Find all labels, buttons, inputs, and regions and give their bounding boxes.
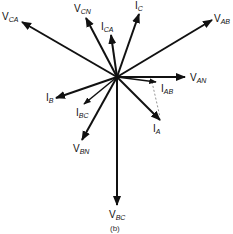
label-i-ca: ICA	[101, 21, 114, 33]
phasor-i-bc	[84, 77, 117, 104]
label-v-cn: VCN	[74, 3, 92, 15]
construction-dashed-lines	[152, 82, 160, 117]
label-i-ab: IAB	[161, 83, 173, 95]
phasor-diagram: VCAVCNICICAVABVANIABIAVBCVBNIBCIB (b)	[0, 0, 233, 234]
label-i-a: IA	[153, 123, 161, 135]
phasor-i-c	[117, 14, 139, 77]
label-i-c: IC	[135, 0, 144, 12]
label-v-bc: VBC	[109, 209, 126, 221]
dashed-line	[152, 82, 160, 117]
phasor-v-ab	[117, 20, 212, 77]
label-v-an: VAN	[190, 72, 207, 84]
phasor-i-a	[117, 77, 160, 120]
label-v-bn: VBN	[73, 143, 90, 155]
phasor-arrows	[22, 14, 212, 205]
label-i-b: IB	[46, 92, 54, 104]
label-i-bc: IBC	[76, 107, 89, 119]
figure-caption: (b)	[110, 224, 120, 233]
label-v-ab: VAB	[214, 13, 230, 25]
label-v-ca: VCA	[2, 11, 19, 23]
